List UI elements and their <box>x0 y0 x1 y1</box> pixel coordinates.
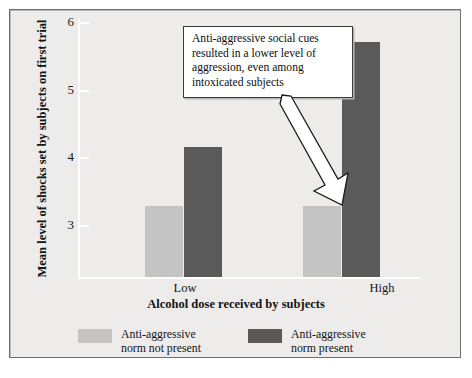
x-tick-label-high: High <box>342 281 422 296</box>
legend-item-norm-not-present: Anti-aggressive norm not present <box>78 327 201 356</box>
annotation-line-4: intoxicated subjects <box>192 76 345 91</box>
legend-swatch-light <box>78 329 112 343</box>
y-tick-label-3: 3 <box>54 218 74 231</box>
legend-swatch-dark <box>248 329 282 343</box>
legend-label-norm-present: Anti-aggressive norm present <box>291 327 366 356</box>
chart-legend: Anti-aggressive norm not present Anti-ag… <box>0 327 472 367</box>
y-axis-title: Mean level of shocks set by subjects on … <box>35 28 50 278</box>
y-tick-label-5: 5 <box>54 83 74 96</box>
y-axis-tick-labels: 6 5 4 3 <box>52 0 74 378</box>
bar-chart-figure: Mean level of shocks set by subjects on … <box>0 0 472 378</box>
x-axis-title: Alcohol dose received by subjects <box>0 297 472 312</box>
annotation-line-2: resulted in a lower level of <box>192 47 345 62</box>
annotation-callout: Anti-aggressive social cues resulted in … <box>183 26 353 98</box>
bar-low-norm-present <box>184 147 222 277</box>
y-tick-label-4: 4 <box>54 150 74 163</box>
annotation-line-3: aggression, even among <box>192 61 345 76</box>
bar-high-norm-not-present <box>303 206 341 277</box>
annotation-line-1: Anti-aggressive social cues <box>192 32 345 47</box>
x-axis-line <box>78 277 420 279</box>
x-tick-label-low: Low <box>145 281 225 296</box>
bar-low-norm-not-present <box>145 206 183 277</box>
legend-label-norm-not-present: Anti-aggressive norm not present <box>121 327 201 356</box>
y-tick-label-6: 6 <box>54 15 74 28</box>
legend-item-norm-present: Anti-aggressive norm present <box>248 327 366 356</box>
